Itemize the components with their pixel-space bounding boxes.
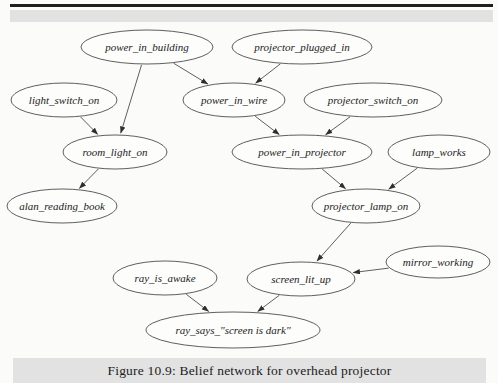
edge-mirror_working-to-screen_lit_up <box>353 268 389 272</box>
node-label: screen_lit_up <box>271 273 331 285</box>
node-light_switch_on: light_switch_on <box>11 83 117 117</box>
belief-network-diagram: power_in_buildingprojector_plugged_inlig… <box>0 0 498 383</box>
edge-power_in_building-to-room_light_on <box>121 65 142 133</box>
node-ray_is_awake: ray_is_awake <box>113 261 217 295</box>
node-mirror_working: mirror_working <box>386 246 490 278</box>
node-label: power_in_wire <box>200 94 267 106</box>
figure-caption: Figure 10.9: Belief network for overhead… <box>107 363 391 379</box>
node-label: light_switch_on <box>29 94 100 106</box>
node-label: power_in_building <box>104 41 189 53</box>
edge-light_switch_on-to-room_light_on <box>81 117 98 134</box>
node-label: room_light_on <box>83 146 148 158</box>
node-label: projector_switch_on <box>327 94 419 106</box>
node-label: lamp_works <box>412 146 466 158</box>
caption-band: Figure 10.9: Belief network for overhead… <box>13 358 486 383</box>
edge-power_in_building-to-power_in_wire <box>174 63 208 84</box>
edge-projector_plugged_in-to-power_in_wire <box>256 64 281 83</box>
node-label: alan_reading_book <box>19 200 106 212</box>
edge-projector_lamp_on-to-screen_lit_up <box>317 223 351 261</box>
node-label: projector_lamp_on <box>323 200 409 212</box>
node-lamp_works: lamp_works <box>388 135 490 169</box>
edge-screen_lit_up-to-ray_says_screen_is_dark <box>258 295 280 311</box>
node-power_in_projector: power_in_projector <box>232 135 372 169</box>
textbook-page: power_in_buildingprojector_plugged_inlig… <box>0 0 498 383</box>
node-ray_says_screen_is_dark: ray_says_"screen is dark" <box>146 312 320 348</box>
node-label: mirror_working <box>403 256 474 268</box>
node-alan_reading_book: alan_reading_book <box>7 189 117 223</box>
edge-room_light_on-to-alan_reading_book <box>79 169 98 188</box>
node-room_light_on: room_light_on <box>63 135 167 169</box>
node-power_in_building: power_in_building <box>81 30 213 64</box>
node-power_in_wire: power_in_wire <box>183 83 285 117</box>
node-projector_lamp_on: projector_lamp_on <box>312 189 420 223</box>
node-label: ray_is_awake <box>134 272 195 284</box>
node-label: power_in_projector <box>257 146 346 158</box>
node-screen_lit_up: screen_lit_up <box>247 262 355 296</box>
node-label: ray_says_"screen is dark" <box>175 324 291 336</box>
edge-projector_switch_on-to-power_in_projector <box>326 117 351 135</box>
node-label: projector_plugged_in <box>253 41 350 53</box>
edge-lamp_works-to-projector_lamp_on <box>389 168 417 189</box>
node-projector_switch_on: projector_switch_on <box>304 83 442 117</box>
edge-power_in_wire-to-power_in_projector <box>255 116 279 134</box>
node-projector_plugged_in: projector_plugged_in <box>232 30 372 64</box>
edge-power_in_projector-to-projector_lamp_on <box>322 169 345 189</box>
edge-ray_is_awake-to-ray_says_screen_is_dark <box>186 294 208 311</box>
